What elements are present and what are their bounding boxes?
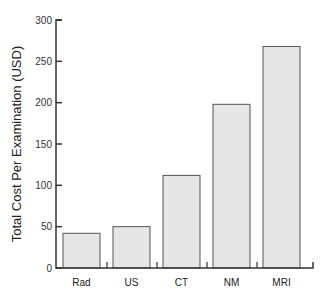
x-tick-label: US [125, 277, 139, 288]
y-axis-ticks: 050100150200250300 [35, 15, 62, 274]
x-tick-label: Rad [72, 277, 90, 288]
y-tick-label: 150 [35, 139, 52, 150]
x-tick-label: NM [224, 277, 240, 288]
y-tick-label: 200 [35, 97, 52, 108]
bar-us [113, 227, 150, 268]
x-tick-label: CT [175, 277, 188, 288]
y-tick-label: 250 [35, 56, 52, 67]
bar-mri [263, 46, 300, 268]
bars [63, 46, 300, 268]
x-tick-label: MRI [272, 277, 290, 288]
y-axis-label-group: Total Cost Per Examination (USD) [9, 46, 24, 243]
y-tick-label: 300 [35, 15, 52, 26]
y-tick-label: 0 [46, 263, 52, 274]
bar-rad [63, 233, 100, 268]
bar-ct [163, 175, 200, 268]
bar-nm [213, 104, 250, 268]
bar-chart: Total Cost Per Examination (USD) 0501001… [0, 0, 328, 299]
y-tick-label: 100 [35, 180, 52, 191]
y-axis-label: Total Cost Per Examination (USD) [9, 46, 24, 243]
y-tick-label: 50 [41, 221, 53, 232]
